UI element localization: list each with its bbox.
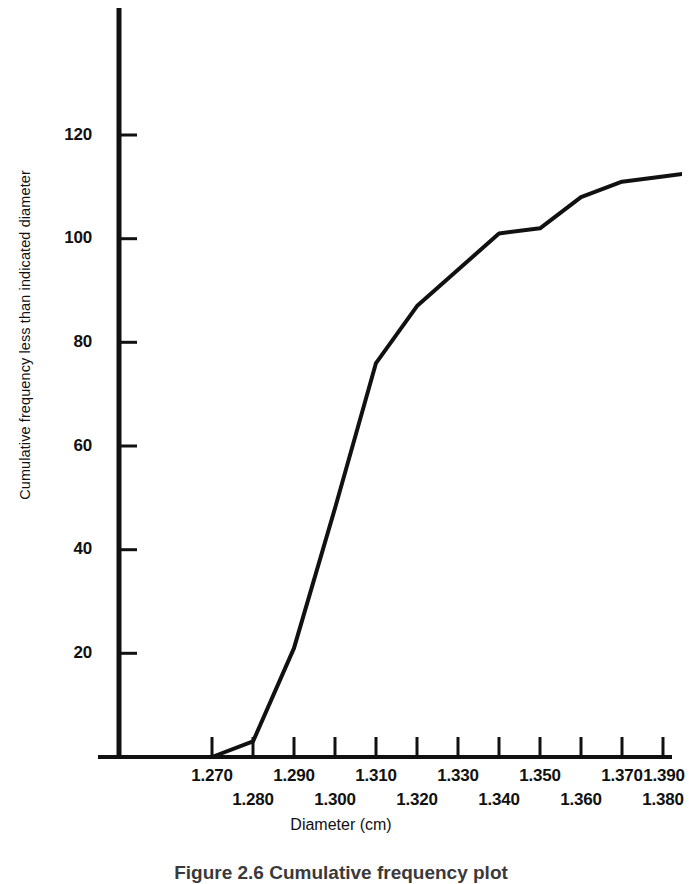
figure-caption: Figure 2.6 Cumulative frequency plot	[0, 862, 682, 884]
x-axis-title: Diameter (cm)	[0, 816, 682, 834]
x-tick-label-1360: 1.360	[541, 790, 621, 810]
y-tick-label-80: 80	[34, 332, 92, 352]
y-tick-label-100: 100	[34, 228, 92, 248]
x-axis-ticks	[212, 737, 663, 757]
x-tick-label-1280: 1.280	[213, 790, 293, 810]
x-tick-label-1330: 1.330	[418, 766, 498, 786]
x-tick-label-1290: 1.290	[254, 766, 334, 786]
cumulative-frequency-curve	[212, 171, 682, 757]
x-tick-label-1390: 1.390	[624, 766, 689, 786]
x-tick-label-1320: 1.320	[377, 790, 457, 810]
y-axis-title-text: Cumulative frequency less than indicated…	[12, 5, 38, 665]
y-tick-label-60: 60	[34, 436, 92, 456]
x-tick-label-1380: 1.380	[623, 790, 689, 810]
y-tick-label-40: 40	[34, 539, 92, 559]
x-tick-label-1270: 1.270	[172, 766, 252, 786]
y-tick-label-20: 20	[34, 643, 92, 663]
x-tick-label-1350: 1.350	[500, 766, 580, 786]
y-tick-label-120: 120	[34, 125, 92, 145]
x-tick-label-1310: 1.310	[336, 766, 416, 786]
y-axis-ticks	[119, 135, 137, 653]
x-tick-label-1340: 1.340	[459, 790, 539, 810]
x-tick-label-1300: 1.300	[295, 790, 375, 810]
